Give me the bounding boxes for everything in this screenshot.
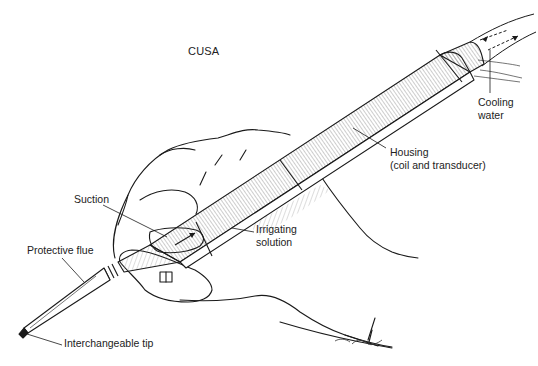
label-suction: Suction xyxy=(74,193,109,206)
label-housing: Housing (coil and transducer) xyxy=(390,146,486,172)
cusa-handpiece xyxy=(19,42,484,338)
label-irrigating-solution: Irrigating solution xyxy=(256,223,297,249)
cusa-illustration: CUSA Cooling water Housing (coil and tra… xyxy=(0,0,538,366)
label-cooling-water-line2: water xyxy=(478,109,514,122)
label-interchangeable-tip: Interchangeable tip xyxy=(64,337,153,350)
inflow-arrow-icon xyxy=(482,36,488,42)
label-irrigating-line1: Irrigating xyxy=(256,223,297,236)
label-housing-line2: (coil and transducer) xyxy=(390,159,486,172)
label-cooling-water-line1: Cooling xyxy=(478,96,514,109)
cooling-water-tubes xyxy=(470,14,536,82)
hand-holding-cusa-drawing xyxy=(0,0,538,366)
diagram-title: CUSA xyxy=(188,45,219,58)
label-protective-flue: Protective flue xyxy=(27,244,94,257)
label-irrigating-line2: solution xyxy=(256,236,297,249)
label-housing-line1: Housing xyxy=(390,146,486,159)
label-cooling-water: Cooling water xyxy=(478,96,514,122)
